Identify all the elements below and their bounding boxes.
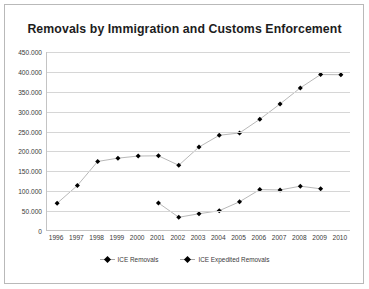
x-tick-label: 2003 [191, 234, 206, 241]
x-tick-label: 2007 [272, 234, 287, 241]
data-point [298, 184, 303, 189]
data-point [156, 153, 161, 158]
legend-marker-icon [100, 256, 115, 263]
y-tick-label: 50.000 [22, 208, 42, 215]
x-tick-label: 2008 [292, 234, 307, 241]
gridline [47, 211, 350, 212]
legend-marker-icon [180, 256, 195, 263]
x-tick-label: 1996 [49, 234, 64, 241]
gridline [47, 92, 350, 93]
y-tick-label: 200.000 [18, 148, 42, 155]
y-tick-label: 450.000 [18, 49, 42, 56]
gridline [47, 191, 350, 192]
gridline [47, 52, 350, 53]
y-tick-label: 250.000 [18, 128, 42, 135]
x-tick-label: 2004 [211, 234, 226, 241]
x-axis: 1996199719981999200020012002200320042005… [46, 234, 350, 248]
x-tick-label: 2010 [333, 234, 348, 241]
chart-legend: ICE RemovalsICE Expedited Removals [0, 256, 369, 263]
series-layer [47, 52, 351, 231]
y-tick-label: 150.000 [18, 168, 42, 175]
x-tick-label: 1998 [89, 234, 104, 241]
y-tick-label: 400.000 [18, 68, 42, 75]
x-tick-label: 1999 [110, 234, 125, 241]
gridline [47, 171, 350, 172]
data-point [217, 133, 222, 138]
chart-title: Removals by Immigration and Customs Enfo… [0, 22, 369, 36]
x-tick-label: 2005 [231, 234, 246, 241]
plot-area [46, 52, 350, 231]
series-line [57, 75, 341, 204]
data-point [338, 72, 343, 77]
gridline [47, 132, 350, 133]
data-point [156, 200, 161, 205]
x-tick-label: 2006 [251, 234, 266, 241]
x-tick-label: 1997 [69, 234, 84, 241]
legend-entry[interactable]: ICE Expedited Removals [180, 256, 269, 263]
gridline [47, 72, 350, 73]
x-tick-label: 2001 [150, 234, 165, 241]
legend-entry[interactable]: ICE Removals [100, 256, 159, 263]
x-tick-label: 2000 [130, 234, 145, 241]
x-tick-label: 2002 [170, 234, 185, 241]
gridline [47, 151, 350, 152]
chart-container: Removals by Immigration and Customs Enfo… [0, 0, 369, 289]
y-tick-label: 100.000 [18, 188, 42, 195]
data-point [237, 199, 242, 204]
y-tick-label: 0 [38, 228, 42, 235]
legend-label: ICE Removals [118, 256, 159, 263]
data-point [115, 156, 120, 161]
y-axis: 050.000100.000150.000200.000250.000300.0… [0, 52, 42, 231]
y-tick-label: 300.000 [18, 108, 42, 115]
legend-label: ICE Expedited Removals [198, 256, 269, 263]
data-point [176, 215, 181, 220]
gridline [47, 112, 350, 113]
x-tick-label: 2009 [312, 234, 327, 241]
data-point [136, 154, 141, 159]
y-tick-label: 350.000 [18, 88, 42, 95]
